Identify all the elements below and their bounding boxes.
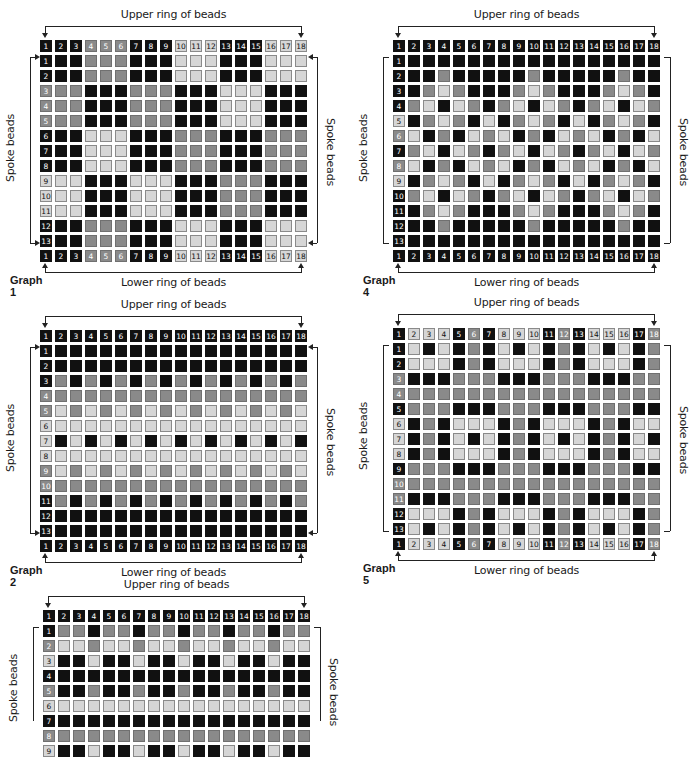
upper-ring-bead: 13 <box>220 40 232 52</box>
spoke-bead: 2 <box>393 70 405 82</box>
spoke-bead <box>115 70 127 82</box>
spoke-bead <box>408 115 420 127</box>
spoke-bead <box>115 405 127 417</box>
spoke-bead <box>573 478 585 490</box>
spoke-bead <box>115 100 127 112</box>
spoke-bead <box>100 465 112 477</box>
spoke-bead <box>513 115 525 127</box>
spoke-bead <box>115 375 127 387</box>
spoke-bead <box>408 205 420 217</box>
lower-ring-bead: 15 <box>250 250 262 262</box>
spoke-bead <box>513 130 525 142</box>
spoke-bead <box>633 463 645 475</box>
spoke-bead <box>558 388 570 400</box>
arrow-down-icon <box>45 603 51 608</box>
spoke-bead <box>513 205 525 217</box>
spoke-bead <box>265 160 277 172</box>
spoke-bead <box>190 345 202 357</box>
spoke-bead <box>588 433 600 445</box>
spoke-bead <box>88 745 100 757</box>
spoke-bead <box>55 220 67 232</box>
spoke-bead <box>133 670 145 682</box>
upper-ring-bead: 10 <box>178 610 190 622</box>
spoke-bead <box>573 523 585 535</box>
right-bracket <box>317 347 318 533</box>
spoke-bead <box>250 510 262 522</box>
spoke-bead <box>558 418 570 430</box>
spoke-bead <box>618 100 630 112</box>
spoke-bead <box>130 70 142 82</box>
spoke-bead <box>543 523 555 535</box>
upper-ring-label: Upper ring of beads <box>474 296 579 309</box>
spoke-bead <box>223 730 235 742</box>
spoke-bead <box>543 85 555 97</box>
spoke-bead <box>190 480 202 492</box>
spoke-bead <box>618 508 630 520</box>
spoke-bead <box>160 450 172 462</box>
spoke-bead <box>648 388 660 400</box>
spoke-bead <box>483 358 495 370</box>
spoke-bead <box>58 685 70 697</box>
spoke-bead <box>543 160 555 172</box>
spoke-bead <box>408 235 420 247</box>
spoke-bead <box>250 345 262 357</box>
spoke-bead <box>648 418 660 430</box>
spoke-bead <box>175 345 187 357</box>
spoke-bead <box>280 495 292 507</box>
spoke-bead <box>453 373 465 385</box>
spoke-bead <box>175 525 187 537</box>
spoke-bead <box>220 235 232 247</box>
spoke-label-left: Spoke beads <box>7 654 20 722</box>
spoke-bead <box>558 358 570 370</box>
spoke-bead <box>85 55 97 67</box>
spoke-bead <box>85 465 97 477</box>
spoke-bead <box>220 100 232 112</box>
spoke-bead <box>205 465 217 477</box>
spoke-bead <box>453 205 465 217</box>
spoke-bead <box>618 433 630 445</box>
spoke-bead <box>235 235 247 247</box>
spoke-bead <box>498 115 510 127</box>
spoke-bead <box>280 525 292 537</box>
spoke-bead <box>283 715 295 727</box>
spoke-bead <box>295 205 307 217</box>
spoke-bead <box>160 390 172 402</box>
spoke-bead <box>543 55 555 67</box>
spoke-bead <box>238 655 250 667</box>
spoke-bead <box>543 358 555 370</box>
spoke-bead <box>70 450 82 462</box>
spoke-bead <box>250 375 262 387</box>
spoke-bead <box>115 525 127 537</box>
spoke-bead <box>265 70 277 82</box>
spoke-bead <box>175 360 187 372</box>
spoke-bead <box>145 465 157 477</box>
spoke-bead <box>70 115 82 127</box>
spoke-bead <box>250 115 262 127</box>
spoke-bead <box>223 655 235 667</box>
spoke-bead <box>438 463 450 475</box>
spoke-bead <box>88 700 100 712</box>
spoke-bead <box>175 510 187 522</box>
spoke-bead <box>190 495 202 507</box>
spoke-bead <box>85 345 97 357</box>
spoke-bead <box>190 115 202 127</box>
lower-ring-bead: 15 <box>603 538 615 550</box>
spoke-bead <box>513 160 525 172</box>
spoke-bead <box>70 220 82 232</box>
spoke-bead <box>453 523 465 535</box>
spoke-bead <box>498 220 510 232</box>
spoke-bead <box>483 205 495 217</box>
spoke-bead <box>100 345 112 357</box>
spoke-bead <box>648 70 660 82</box>
spoke-bead <box>253 730 265 742</box>
spoke-bead <box>528 175 540 187</box>
spoke-bead <box>208 745 220 757</box>
upper-ring-bead: 2 <box>408 328 420 340</box>
spoke-bead <box>603 418 615 430</box>
spoke-bead <box>220 345 232 357</box>
spoke-bead <box>70 345 82 357</box>
spoke-bead <box>100 55 112 67</box>
spoke-bead <box>250 435 262 447</box>
spoke-bead <box>280 420 292 432</box>
spoke-bead <box>253 745 265 757</box>
